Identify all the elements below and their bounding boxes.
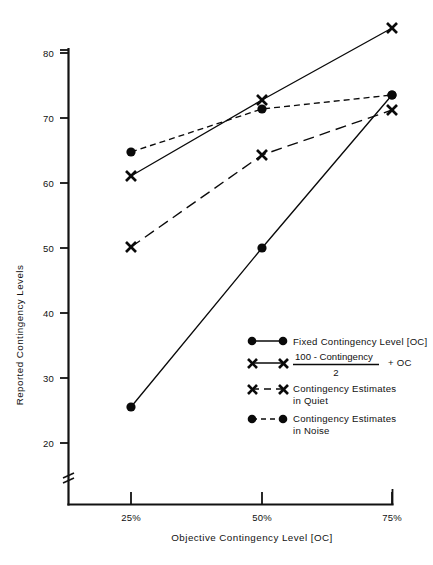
y-tick-label-50: 50: [43, 243, 54, 254]
marker-dot-50-noise: [257, 104, 266, 113]
marker-dot-25-noise: [126, 147, 135, 156]
legend-label-estimates-quiet: Contingency Estimates: [293, 383, 396, 394]
legend-item-estimates-noise[interactable]: Contingency Estimates in Noise: [248, 413, 397, 436]
marker-dot-75-fixed: [387, 90, 396, 99]
chart-figure: 80 70 60 50 40 30 20 25% 50% 75% Reporte…: [0, 0, 433, 565]
legend-marker-dot-left: [248, 337, 257, 346]
y-tick-label-40: 40: [43, 308, 54, 319]
legend: Fixed Contingency Level [OC] 100 - Conti…: [248, 336, 428, 437]
marker-x-25-formula: [126, 171, 136, 181]
x-tick-label-25: 25%: [121, 512, 141, 523]
x-axis-title: Objective Contingency Level [OC]: [171, 532, 332, 543]
legend-fraction-suffix: + OC: [388, 357, 412, 368]
marker-x-25-quiet: [126, 242, 136, 252]
y-tick-label-60: 60: [43, 178, 54, 189]
legend-item-fixed-contingency[interactable]: Fixed Contingency Level [OC]: [248, 336, 428, 347]
y-tick-label-70: 70: [43, 113, 54, 124]
legend-item-estimates-quiet[interactable]: Contingency Estimates in Quiet: [248, 383, 396, 406]
y-tick-label-30: 30: [43, 373, 54, 384]
marker-dot-25-fixed: [126, 402, 135, 411]
marker-x-75-quiet: [387, 105, 397, 115]
x-tick-label-75: 75%: [382, 512, 402, 523]
x-tick-label-50: 50%: [252, 512, 272, 523]
legend-fraction-numerator: 100 - Contingency: [295, 351, 373, 362]
legend-marker-dot-right: [279, 337, 288, 346]
marker-x-50-formula: [257, 95, 267, 105]
legend-label-estimates-noise-2: in Noise: [293, 425, 330, 436]
axis-group: 80 70 60 50 40 30 20 25% 50% 75% Reporte…: [14, 48, 402, 544]
legend-fraction-denominator: 2: [333, 367, 338, 378]
legend-label-fixed-contingency: Fixed Contingency Level [OC]: [293, 336, 427, 347]
series-estimates-quiet-line: [131, 110, 392, 247]
legend-label-estimates-quiet-2: in Quiet: [293, 395, 328, 406]
marker-x-50-quiet: [257, 150, 267, 160]
legend-marker-dot-left-noise: [248, 415, 257, 424]
marker-x-75-formula: [387, 23, 397, 33]
legend-item-formula[interactable]: 100 - Contingency 2 + OC: [248, 351, 412, 378]
series-estimates-quiet: [126, 105, 397, 252]
marker-dot-50-fixed: [257, 243, 266, 252]
legend-marker-dot-right-noise: [279, 415, 288, 424]
y-tick-label-80: 80: [43, 48, 54, 59]
y-axis-title: Reported Contingency Levels: [14, 265, 25, 406]
legend-label-estimates-noise: Contingency Estimates: [293, 413, 396, 424]
y-tick-label-20: 20: [43, 438, 54, 449]
